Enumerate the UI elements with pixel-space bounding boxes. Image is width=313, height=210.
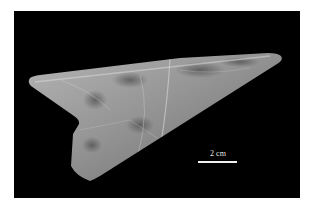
scale-bar-label: 2 cm [198, 149, 238, 158]
artifact-silhouette [29, 53, 282, 181]
artifact-image [0, 0, 313, 210]
scale-bar [198, 161, 237, 163]
